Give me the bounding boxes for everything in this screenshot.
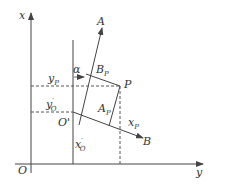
- bp-label: BP: [95, 63, 109, 78]
- a-axis-label: A: [96, 15, 105, 28]
- alpha-label: α: [73, 63, 81, 76]
- point-p-label: P: [123, 78, 132, 91]
- y-axis-label: y: [195, 166, 203, 179]
- yo-label: y′O: [45, 97, 57, 113]
- b-axis-label: B: [142, 135, 151, 148]
- xo-label: x′O: [75, 137, 86, 153]
- x-axis-label: x: [19, 9, 26, 22]
- xp-label: xP: [128, 116, 139, 131]
- origin-label: O: [18, 164, 27, 177]
- ap-projection-line: [109, 86, 120, 126]
- coordinate-diagram: x y O A B O' α P BP AP xP yP y′O x′O: [0, 0, 225, 188]
- ap-label: AP: [97, 102, 111, 117]
- local-origin-label: O': [58, 116, 70, 129]
- yp-label: yP: [47, 72, 59, 87]
